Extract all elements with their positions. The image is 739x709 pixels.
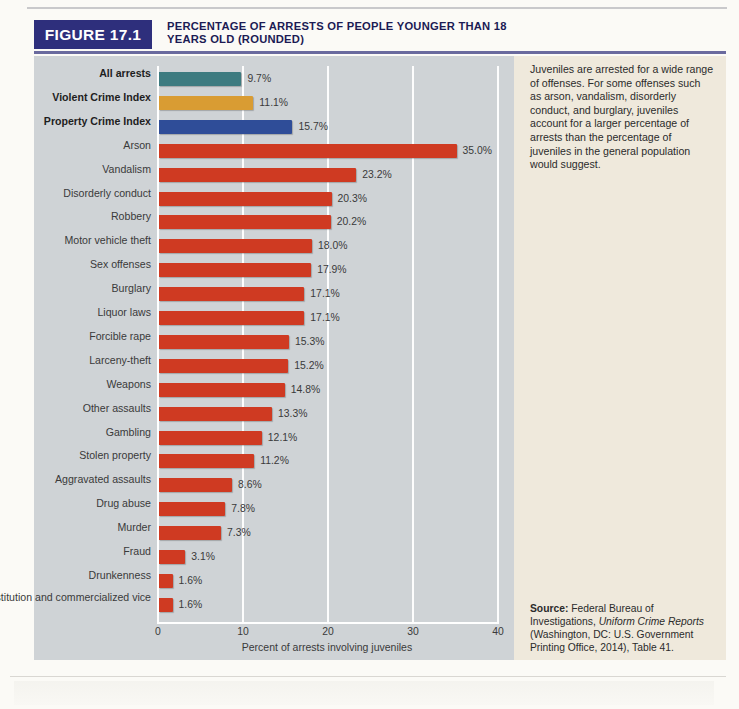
bar [159,502,225,516]
bar-value-label: 1.6% [179,598,203,612]
chart-panel: All arrests9.7%Violent Crime Index11.1%P… [34,56,514,660]
figure-page: FIGURE 17.1 PERCENTAGE OF ARRESTS OF PEO… [0,0,739,709]
figure-caption: Juveniles are arrested for a wide range … [530,63,714,172]
bar-category-label: Sex offenses [0,259,151,271]
bar-value-label: 17.1% [310,311,339,325]
bar [159,168,356,182]
bar-category-label: Stolen property [0,450,151,462]
bar-row: Robbery20.2% [34,211,514,234]
bar-value-label: 12.1% [268,431,297,445]
bar-category-label: Robbery [0,211,151,223]
bar-value-label: 20.3% [338,192,367,206]
bar [159,215,331,229]
bar-value-label: 15.2% [294,359,323,373]
bar-row: Larceny-theft15.2% [34,355,514,378]
bar-value-label: 13.3% [278,407,307,421]
source-label: Source: [530,603,568,614]
bar [159,431,262,445]
bar [159,335,289,349]
bar-category-label: Forcible rape [0,331,151,343]
bar-row: Murder7.3% [34,522,514,545]
bar [159,192,332,206]
bar-row: Burglary17.1% [34,283,514,306]
bar-row: Stolen property11.2% [34,450,514,473]
bar-value-label: 3.1% [191,550,215,564]
bar-row: Gambling12.1% [34,427,514,450]
bar-row: Weapons14.8% [34,379,514,402]
bar-category-label: Gambling [0,427,151,439]
bar-category-label: Murder [0,522,151,534]
bar-category-label: Disorderly conduct [0,188,151,200]
x-axis-baseline [157,622,499,624]
bar-row: Fraud3.1% [34,546,514,569]
bar-category-label: Property Crime Index [0,116,151,128]
bar [159,383,285,397]
bar [159,454,254,468]
bar [159,96,253,110]
bar [159,72,241,86]
bar-value-label: 8.6% [238,478,262,492]
bar [159,407,272,421]
bar [159,550,185,564]
figure-source: Source: Federal Bureau of Investigations… [530,602,716,654]
x-tick-label-10: 10 [237,626,249,637]
bar-category-label: Liquor laws [0,307,151,319]
bar-category-label: Fraud [0,546,151,558]
bar-value-label: 1.6% [179,574,203,588]
bar-row: Motor vehicle theft18.0% [34,235,514,258]
bar-value-label: 7.8% [231,502,255,516]
bar-value-label: 18.0% [318,239,347,253]
x-tick-label-0: 0 [155,626,161,637]
bar-value-label: 11.1% [259,96,288,110]
bar-category-label: Violent Crime Index [0,92,151,104]
bar-value-label: 9.7% [247,72,271,86]
x-tick-label-30: 30 [407,626,419,637]
side-panel: Juveniles are arrested for a wide range … [514,56,726,660]
x-axis-title: Percent of arrests involving juveniles [157,641,497,653]
page-bottom-rule [10,676,726,677]
bar-row: Sex offenses17.9% [34,259,514,282]
bar-row: Drunkenness1.6% [34,570,514,593]
bar-row: Vandalism23.2% [34,164,514,187]
bar-value-label: 11.2% [260,454,289,468]
bar-row: Property Crime Index15.7% [34,116,514,139]
bar-value-label: 17.9% [317,263,346,277]
bar-category-label: Prostitution and commercialized vice [0,592,151,604]
bar-category-label: All arrests [0,68,151,80]
bar-row: Liquor laws17.1% [34,307,514,330]
bar [159,239,312,253]
bar-row: All arrests9.7% [34,68,514,91]
bar [159,478,232,492]
figure-number-badge: FIGURE 17.1 [34,20,152,49]
bar [159,359,288,373]
page-bleed-text [14,681,714,705]
bar [159,598,173,612]
bar-category-label: Drug abuse [0,498,151,510]
bar-value-label: 20.2% [337,215,366,229]
bar-row: Aggravated assaults8.6% [34,474,514,497]
bar-value-label: 7.3% [227,526,251,540]
bar [159,287,304,301]
x-tick-label-20: 20 [322,626,334,637]
bar-category-label: Larceny-theft [0,355,151,367]
bar-row: Violent Crime Index11.1% [34,92,514,115]
bar-value-label: 23.2% [362,168,391,182]
bar-row: Forcible rape15.3% [34,331,514,354]
bar-category-label: Other assaults [0,403,151,415]
bar-category-label: Weapons [0,379,151,391]
bar-category-label: Motor vehicle theft [0,235,151,247]
bar [159,574,173,588]
bar-value-label: 17.1% [310,287,339,301]
bar-category-label: Aggravated assaults [0,474,151,486]
source-text-part2: (Washington, DC: U.S. Government Printin… [530,629,693,653]
bar [159,144,457,158]
bar-row: Prostitution and commercialized vice1.6% [34,594,514,617]
bar-row: Other assaults13.3% [34,403,514,426]
header-underline [34,51,726,54]
bar-category-label: Drunkenness [0,570,151,582]
x-tick-label-40: 40 [492,626,504,637]
figure-title: PERCENTAGE OF ARRESTS OF PEOPLE YOUNGER … [167,20,517,46]
bar-value-label: 15.7% [298,120,327,134]
bar-category-label: Vandalism [0,164,151,176]
bar [159,526,221,540]
